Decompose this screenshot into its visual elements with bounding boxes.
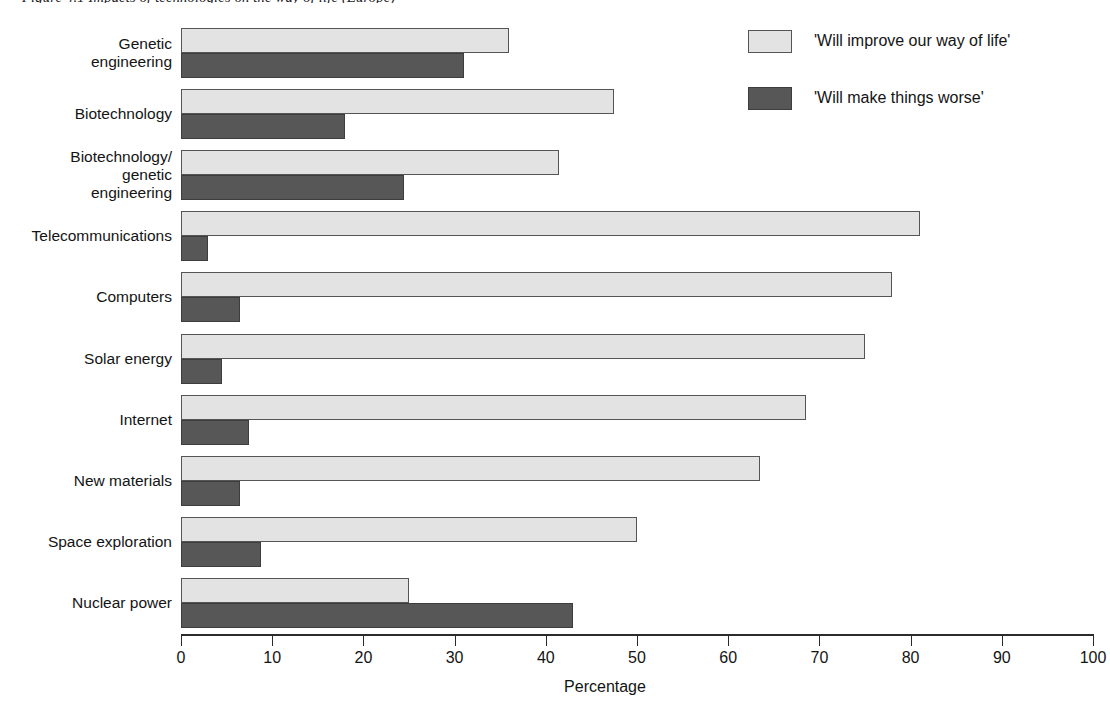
bar-chart: GeneticengineeringBiotechnologyBiotechno…: [0, 0, 1110, 707]
bar-improve: [181, 272, 892, 297]
category-label: Computers: [0, 288, 172, 306]
bar-group: [181, 395, 1093, 445]
x-tick-label: 70: [789, 649, 849, 667]
x-tick-label: 50: [607, 649, 667, 667]
x-axis-title: Percentage: [0, 678, 1110, 696]
chart-legend: 'Will improve our way of life''Will make…: [748, 26, 1098, 140]
x-tick-label: 100: [1063, 649, 1110, 667]
x-tick: [819, 634, 820, 646]
legend-item-worse: 'Will make things worse': [748, 83, 1098, 113]
bar-improve: [181, 211, 920, 236]
category-label: New materials: [0, 472, 172, 490]
bar-worse: [181, 236, 208, 261]
x-tick-label: 10: [242, 649, 302, 667]
bar-worse: [181, 359, 222, 384]
x-tick: [546, 634, 547, 646]
category-label: Internet: [0, 411, 172, 429]
bar-worse: [181, 53, 464, 78]
category-label: Solar energy: [0, 350, 172, 368]
category-label: Biotechnology: [0, 105, 172, 123]
bar-worse: [181, 603, 573, 628]
bar-group: [181, 456, 1093, 506]
bar-group: [181, 272, 1093, 322]
x-tick: [363, 634, 364, 646]
legend-label: 'Will make things worse': [814, 89, 984, 107]
bar-group: [181, 578, 1093, 628]
category-label-line: New materials: [0, 472, 172, 490]
x-tick: [728, 634, 729, 646]
bar-worse: [181, 175, 404, 200]
x-tick: [911, 634, 912, 646]
x-tick: [637, 634, 638, 646]
legend-label: 'Will improve our way of life': [814, 32, 1010, 50]
category-label-line: Nuclear power: [0, 594, 172, 612]
x-tick-label: 40: [516, 649, 576, 667]
category-label-line: Biotechnology: [0, 105, 172, 123]
bar-improve: [181, 334, 865, 359]
bar-group: [181, 211, 1093, 261]
category-label: Biotechnology/geneticengineering: [0, 148, 172, 202]
x-tick-label: 20: [333, 649, 393, 667]
bar-worse: [181, 297, 240, 322]
category-label-line: engineering: [0, 53, 172, 71]
bar-improve: [181, 456, 760, 481]
bar-improve: [181, 578, 409, 603]
legend-swatch-worse: [748, 87, 792, 110]
category-label-line: Computers: [0, 288, 172, 306]
category-label-line: engineering: [0, 184, 172, 202]
category-axis-labels: GeneticengineeringBiotechnologyBiotechno…: [0, 22, 172, 634]
x-tick: [1093, 634, 1094, 646]
x-tick-label: 0: [151, 649, 211, 667]
bar-worse: [181, 114, 345, 139]
x-tick: [272, 634, 273, 646]
category-label: Geneticengineering: [0, 35, 172, 71]
legend-swatch-improve: [748, 30, 792, 53]
legend-item-improve: 'Will improve our way of life': [748, 26, 1098, 56]
category-label-line: Biotechnology/: [0, 148, 172, 166]
category-label-line: Telecommunications: [0, 227, 172, 245]
category-label: Nuclear power: [0, 594, 172, 612]
bar-improve: [181, 395, 806, 420]
bar-worse: [181, 542, 261, 567]
x-tick: [1002, 634, 1003, 646]
bar-worse: [181, 420, 249, 445]
x-tick-label: 30: [425, 649, 485, 667]
x-tick-label: 90: [972, 649, 1032, 667]
category-label-line: Solar energy: [0, 350, 172, 368]
bar-group: [181, 150, 1093, 200]
bar-improve: [181, 150, 559, 175]
bar-worse: [181, 481, 240, 506]
bar-improve: [181, 517, 637, 542]
bar-group: [181, 517, 1093, 567]
bar-improve: [181, 89, 614, 114]
category-label-line: Internet: [0, 411, 172, 429]
bar-group: [181, 334, 1093, 384]
bar-improve: [181, 28, 509, 53]
category-label-line: genetic: [0, 166, 172, 184]
x-tick-label: 60: [698, 649, 758, 667]
category-label-line: Genetic: [0, 35, 172, 53]
category-label-line: Space exploration: [0, 533, 172, 551]
x-tick: [181, 634, 182, 646]
category-label: Telecommunications: [0, 227, 172, 245]
x-tick: [455, 634, 456, 646]
category-label: Space exploration: [0, 533, 172, 551]
x-tick-label: 80: [881, 649, 941, 667]
